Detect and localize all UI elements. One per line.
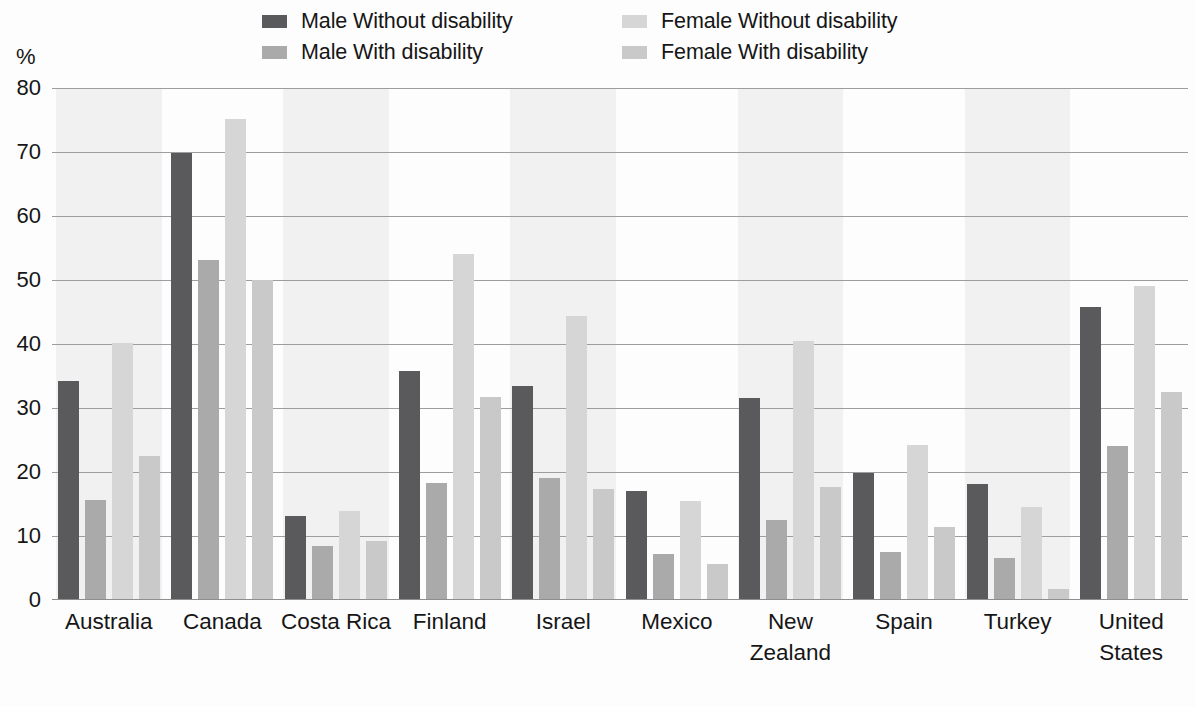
bar [653,554,674,600]
bar [399,371,420,600]
bar-group [847,88,961,600]
legend-item-male-with-disability: Male With disability [262,42,622,64]
legend-label: Female Without disability [661,11,897,33]
bar [512,386,533,600]
bar-group [734,88,848,600]
y-axis-tick-label: 0 [0,587,41,613]
legend-label: Male With disability [301,42,483,64]
legend-swatch-icon [622,46,647,59]
bar-group [961,88,1075,600]
bar [739,398,760,600]
bar-group [166,88,280,600]
bar [626,491,647,600]
legend-label: Female With disability [661,42,868,64]
bar [171,153,192,600]
bar [139,456,160,600]
legend-item-female-without-disability: Female Without disability [622,11,982,33]
plot-area: 01020304050607080 [52,88,1188,600]
y-axis-tick-label: 80 [0,75,41,101]
bar [707,564,728,600]
y-axis-tick-label: 30 [0,395,41,421]
y-axis-tick-label: 50 [0,267,41,293]
bar-group [393,88,507,600]
x-axis-category-label: United States [1062,606,1195,668]
bar [366,541,387,600]
bar [252,280,273,600]
bar [994,558,1015,600]
bar [566,316,587,600]
bar [1021,507,1042,600]
bar [312,546,333,600]
bar-group [52,88,166,600]
chart-page: Male Without disability Female Without d… [0,0,1195,707]
legend-item-male-without-disability: Male Without disability [262,11,622,33]
bar [453,254,474,600]
bar [934,527,955,600]
bar [766,520,787,600]
y-axis-tick-label: 20 [0,459,41,485]
bar [426,483,447,600]
bar [225,119,246,600]
legend-item-female-with-disability: Female With disability [622,42,982,64]
bar [480,397,501,600]
bar [58,381,79,600]
bar-group [1074,88,1188,600]
bar [85,500,106,600]
y-axis-tick-label: 10 [0,523,41,549]
bar [967,484,988,600]
legend-swatch-icon [262,15,287,28]
bar [880,552,901,600]
y-axis-unit-label: % [16,44,36,70]
bar [680,501,701,600]
chart-legend: Male Without disability Female Without d… [262,6,1162,68]
y-axis-tick-label: 40 [0,331,41,357]
bar-group [506,88,620,600]
bar [339,511,360,600]
bar [285,516,306,600]
x-axis-labels: AustraliaCanadaCosta RicaFinlandIsraelMe… [52,606,1188,701]
bar [1161,392,1182,600]
bar [820,487,841,600]
bar [539,478,560,600]
bar [907,445,928,600]
bar [1080,307,1101,600]
bar-group [279,88,393,600]
y-axis-tick-label: 60 [0,203,41,229]
bar [593,489,614,600]
bar [1134,286,1155,600]
y-axis-tick-label: 70 [0,139,41,165]
bar [793,341,814,600]
x-axis-line [52,599,1188,600]
bar [1107,446,1128,600]
bar [112,343,133,600]
legend-swatch-icon [262,46,287,59]
legend-swatch-icon [622,15,647,28]
bar [198,260,219,600]
bar [853,473,874,600]
legend-label: Male Without disability [301,11,513,33]
bar-group [620,88,734,600]
